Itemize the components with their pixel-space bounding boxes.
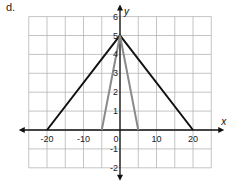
x-tick-label: -10 [77, 134, 90, 144]
x-tick-label: 10 [151, 134, 161, 144]
x-tick-label: 0 [113, 134, 118, 144]
graph: -20-1001020654321-1-2xy [0, 0, 228, 184]
x-axis-label: x [220, 116, 227, 127]
y-axis-label: y [123, 6, 130, 17]
y-tick-label: 2 [113, 87, 118, 97]
y-tick-label: -1 [110, 144, 118, 154]
y-tick-label: 5 [113, 31, 118, 41]
y-tick-label: 1 [113, 106, 118, 116]
x-axis-right-arrow-icon [218, 127, 224, 133]
x-tick-label: -20 [40, 134, 53, 144]
y-tick-label: 4 [113, 49, 118, 59]
x-tick-label: 20 [188, 134, 198, 144]
y-tick-label: -2 [110, 163, 118, 173]
y-tick-label: 3 [113, 68, 118, 78]
y-axis-up-arrow-icon [117, 5, 123, 11]
y-tick-label: 6 [113, 12, 118, 22]
y-axis-down-arrow-icon [117, 175, 123, 181]
x-axis-left-arrow-icon [19, 127, 25, 133]
